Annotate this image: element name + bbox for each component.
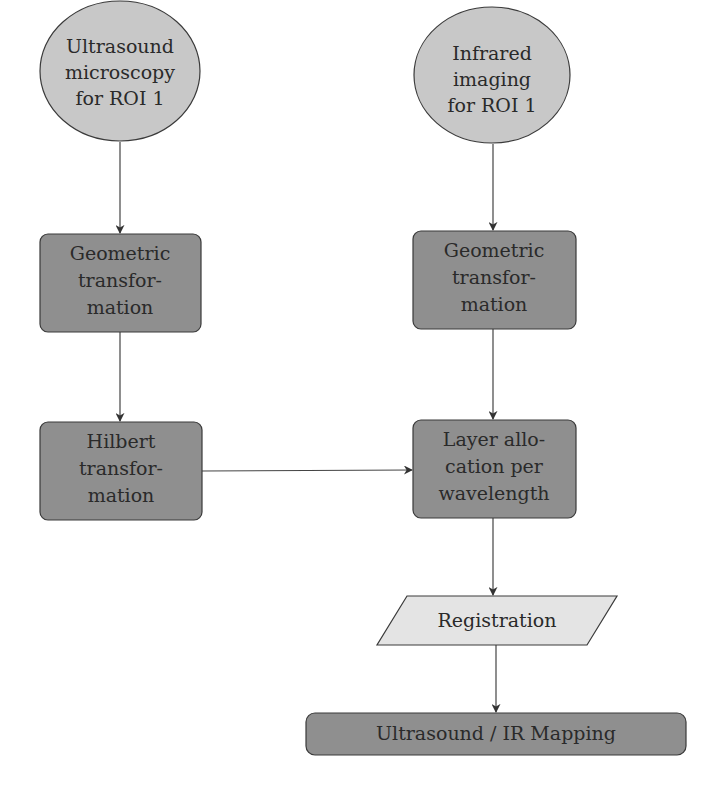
node-label-line: Registration	[438, 609, 557, 631]
node-label-line: Hilbert	[87, 430, 156, 452]
node-registration: Registration	[377, 596, 617, 645]
node-label-line: microscopy	[65, 61, 175, 83]
node-label-line: Layer allo-	[443, 428, 545, 450]
node-infrared-start: Infrared imaging for ROI 1	[414, 7, 570, 143]
node-label-line: mation	[461, 293, 528, 315]
node-label-line: for ROI 1	[75, 87, 164, 109]
node-layer-allocation: Layer allo- cation per wavelength	[413, 420, 576, 518]
node-label-line: mation	[88, 484, 155, 506]
node-label-line: for ROI 1	[447, 94, 536, 116]
node-label-line: Geometric	[70, 242, 171, 264]
node-label-line: wavelength	[438, 482, 549, 504]
node-label-line: Geometric	[444, 239, 545, 261]
node-label-line: Ultrasound	[66, 35, 174, 57]
node-ultrasound-start: Ultrasound microscopy for ROI 1	[40, 1, 200, 141]
node-label-line: Infrared	[452, 42, 532, 64]
node-ultrasound-ir-mapping: Ultrasound / IR Mapping	[306, 713, 686, 755]
flowchart: Ultrasound microscopy for ROI 1 Infrared…	[0, 0, 710, 788]
node-label-line: transfor-	[78, 269, 162, 291]
node-hilbert-transformation: Hilbert transfor- mation	[40, 422, 202, 520]
node-label-line: cation per	[445, 455, 544, 477]
edge-hilbert-to-layer	[202, 470, 412, 471]
node-label-line: transfor-	[79, 457, 163, 479]
node-infrared-geometric-transformation: Geometric transfor- mation	[413, 231, 576, 329]
node-label-line: mation	[87, 296, 154, 318]
node-label-line: transfor-	[452, 266, 536, 288]
node-ultrasound-geometric-transformation: Geometric transfor- mation	[40, 234, 201, 332]
node-label-line: imaging	[453, 68, 531, 90]
node-label-line: Ultrasound / IR Mapping	[376, 722, 616, 744]
